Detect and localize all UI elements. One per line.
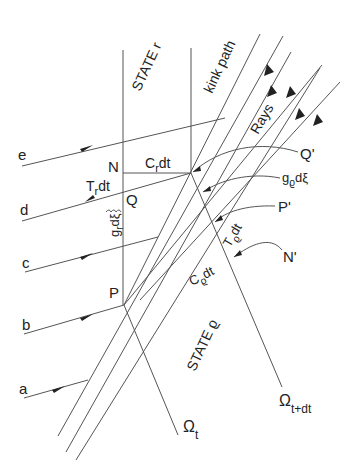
n-prime-label: N' <box>283 248 297 265</box>
arrow-icon <box>203 186 211 192</box>
c-rho-dt-label: Cϱdt <box>186 263 218 291</box>
incoming-ray-b <box>24 305 124 334</box>
svg-text:Ωt+dt: Ωt+dt <box>279 392 312 416</box>
p-prime-label: P' <box>278 198 291 215</box>
rays-label: Rays <box>247 101 277 137</box>
svg-text:Trdt: Trdt <box>86 178 110 197</box>
svg-text:Crdt: Crdt <box>145 155 171 174</box>
arrow-icon <box>234 250 242 257</box>
arrow-icon <box>193 166 201 172</box>
incoming-label-e: e <box>18 146 26 163</box>
svg-text:gϱdξ: gϱdξ <box>282 170 308 188</box>
incoming-label-b: b <box>22 316 30 333</box>
arrow-icon <box>264 64 274 76</box>
svg-text:Ωt: Ωt <box>183 418 199 442</box>
point-n-label: N <box>108 158 119 175</box>
incoming-label-a: a <box>19 380 28 397</box>
q-prime-label: Q' <box>300 145 315 162</box>
point-q-label: Q <box>126 191 138 208</box>
arrow-icon <box>295 108 305 120</box>
incoming-label-c: c <box>22 254 30 271</box>
tr-dt-label: Trdt <box>86 178 110 197</box>
gr-brace <box>106 210 121 212</box>
arrow-icon <box>286 86 296 98</box>
omega-t-label: Ωt <box>183 418 199 442</box>
characteristics-diagram: STATE r kink path Rays STATE ϱ e d c b a… <box>0 0 357 469</box>
incoming-label-d: d <box>20 201 28 218</box>
arrow-icon <box>52 386 65 393</box>
arrow-icon <box>80 253 93 260</box>
g-rho-dxi-label: gϱdξ <box>282 170 308 188</box>
kink-path-label: kink path <box>200 38 238 96</box>
point-p-label: P <box>109 284 119 301</box>
state-r-label: STATE r <box>128 39 164 93</box>
cr-dt-label: Crdt <box>145 155 171 174</box>
t-rho-dt-label: Tϱdt <box>220 220 248 251</box>
svg-text:Tϱdt: Tϱdt <box>220 220 248 251</box>
state-rho-label: STATE ϱ <box>183 317 221 374</box>
svg-text:grdξ: grdξ <box>107 213 125 237</box>
gr-dxi-label: grdξ <box>107 213 125 237</box>
ray-line <box>58 36 283 436</box>
ray-line <box>140 82 340 300</box>
svg-text:Cϱdt: Cϱdt <box>186 263 218 291</box>
arrow-icon <box>313 114 323 126</box>
arrow-icon <box>80 314 93 321</box>
incoming-ray-c <box>25 237 158 272</box>
omega-t-dt-label: Ωt+dt <box>279 392 312 416</box>
